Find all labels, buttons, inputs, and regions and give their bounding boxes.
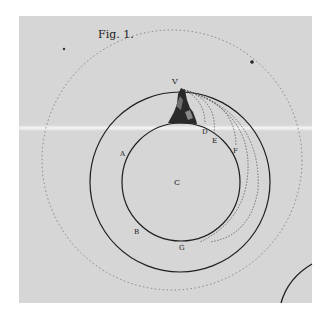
ink-speck xyxy=(250,60,254,64)
figure-title: Fig. 1. xyxy=(98,28,134,41)
label-g: G xyxy=(179,244,185,252)
adjacent-figure-arc xyxy=(281,264,312,303)
label-a: A xyxy=(119,150,126,158)
label-c: C xyxy=(174,178,180,187)
label-v: V xyxy=(171,77,178,86)
earth-circle xyxy=(122,123,240,241)
outer-dotted-orbit xyxy=(42,30,302,290)
ink-speck xyxy=(63,48,65,50)
trajectory-curves xyxy=(184,90,258,242)
label-e: E xyxy=(212,137,217,145)
label-b: B xyxy=(134,228,139,236)
newton-cannon-diagram: Fig. 1. V D E F A C B G xyxy=(0,0,327,321)
label-d: D xyxy=(202,128,208,136)
label-f: F xyxy=(233,147,238,155)
